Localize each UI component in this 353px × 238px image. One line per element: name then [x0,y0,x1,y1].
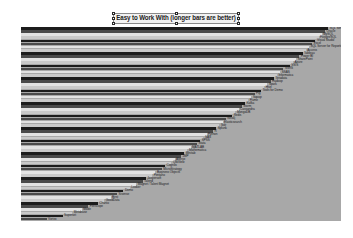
resize-handle-bottom-left[interactable] [112,22,115,25]
resize-handle-middle-left[interactable] [112,17,115,20]
resize-handle-bottom-right[interactable] [237,22,240,25]
bar-label: Splunk [218,127,227,130]
bar [21,218,47,221]
bar-label: Periscope [90,205,103,208]
bar-label: Superset [64,214,76,217]
resize-handle-middle-right[interactable] [237,17,240,20]
resize-handle-top-right[interactable] [237,12,240,15]
resize-handle-top-center[interactable] [175,12,178,15]
bar-label: Tools for Demo [263,89,283,92]
bar-label: Sisense [119,192,130,195]
chart-title-textbox[interactable]: Easy to Work With (longer bars are bette… [113,13,239,24]
bar-series: SQL Server 2014OracleMySQLPostgreSQLVisu… [21,27,341,221]
resize-handle-bottom-center[interactable] [175,22,178,25]
bar-label: Vortex [48,217,56,220]
bar-label: Elasticsearch [224,120,242,123]
bar-label: Magnet / Talent Magnet [138,183,169,186]
chart-title-text: Easy to Work With (longer bars are bette… [116,15,235,22]
resize-handle-top-left[interactable] [112,12,115,15]
chart-container: Easy to Work With (longer bars are bette… [0,0,353,238]
plot-area: SQL Server 2014OracleMySQLPostgreSQLVisu… [21,27,341,221]
